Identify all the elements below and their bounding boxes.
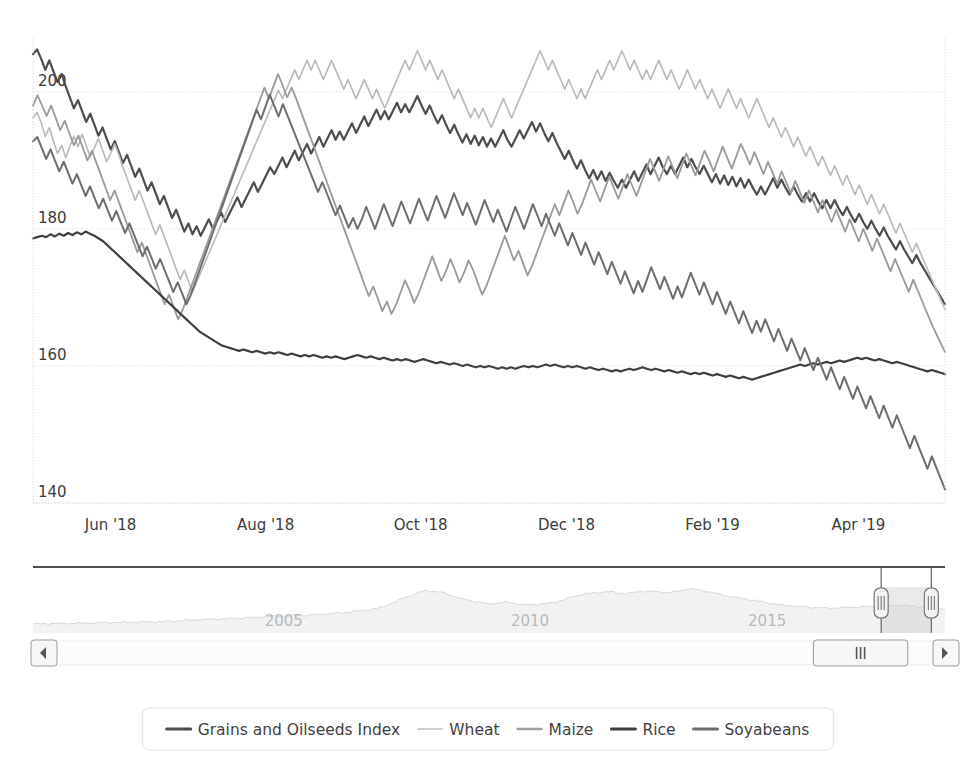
legend[interactable]: Grains and Oilseeds IndexWheatMaizeRiceS… xyxy=(143,708,834,750)
y-axis-tick-label: 140 xyxy=(38,483,67,501)
y-axis-tick-label: 180 xyxy=(38,209,67,227)
navigator-handle-right[interactable] xyxy=(924,588,938,618)
scrollbar-thumb[interactable] xyxy=(813,640,907,666)
legend-item-label: Maize xyxy=(549,721,594,739)
legend-item-label: Grains and Oilseeds Index xyxy=(198,721,401,739)
navigator-handle-left[interactable] xyxy=(874,588,888,618)
y-axis-tick-label: 160 xyxy=(38,346,67,364)
navigator-year-label: 2010 xyxy=(511,612,549,630)
x-axis-tick-label: Aug '18 xyxy=(237,516,294,534)
scrollbar-left-arrow-button[interactable] xyxy=(31,640,57,666)
legend-item-label: Wheat xyxy=(449,721,499,739)
scrollbar-track[interactable] xyxy=(55,641,935,665)
scrollbar[interactable] xyxy=(31,640,959,666)
navigator-year-label: 2005 xyxy=(265,612,303,630)
x-axis-tick-label: Jun '18 xyxy=(84,516,136,534)
legend-item-label: Soyabeans xyxy=(725,721,810,739)
x-axis-tick-label: Feb '19 xyxy=(685,516,740,534)
x-axis-tick-label: Oct '18 xyxy=(394,516,448,534)
navigator-year-label: 2015 xyxy=(748,612,786,630)
scrollbar-right-arrow-button[interactable] xyxy=(933,640,959,666)
legend-item-label: Rice xyxy=(642,721,675,739)
x-axis-tick-label: Dec '18 xyxy=(538,516,595,534)
stock-chart-container: 140160180200 Jun '18Aug '18Oct '18Dec '1… xyxy=(0,0,976,777)
legend-item-grains-and-oilseeds-index[interactable]: Grains and Oilseeds Index xyxy=(167,721,401,739)
navigator[interactable]: 200520102015 xyxy=(33,567,945,633)
x-axis-tick-label: Apr '19 xyxy=(831,516,885,534)
